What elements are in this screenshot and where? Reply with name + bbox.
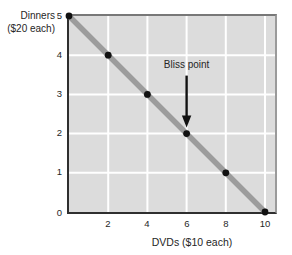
- x-tick-label-6: 6: [184, 218, 189, 230]
- y-tick-label-2: 2: [38, 127, 62, 139]
- y-tick-label-0: 0: [38, 207, 62, 219]
- y-tick-label-3: 3: [38, 88, 62, 100]
- x-axis-title: DVDs ($10 each): [152, 236, 233, 248]
- x-tick-label-10: 10: [260, 218, 271, 230]
- y-tick-label-4: 4: [38, 49, 62, 61]
- x-tick-label-8: 8: [223, 218, 228, 230]
- plot-area: Bliss point: [67, 14, 277, 214]
- y-axis-title-line1: Dinners: [7, 9, 55, 22]
- budget-line-plot: [69, 16, 275, 212]
- budget-line-figure: Dinners ($20 each) 5 4 3 2 1 0 Bliss poi…: [0, 0, 292, 255]
- y-axis-title-line2: ($20 each): [7, 22, 55, 35]
- y-axis-title: Dinners ($20 each): [7, 9, 55, 35]
- x-tick-label-4: 4: [144, 218, 149, 230]
- x-tick-label-2: 2: [105, 218, 110, 230]
- y-tick-label-1: 1: [38, 166, 62, 178]
- bliss-point-label: Bliss point: [164, 59, 210, 71]
